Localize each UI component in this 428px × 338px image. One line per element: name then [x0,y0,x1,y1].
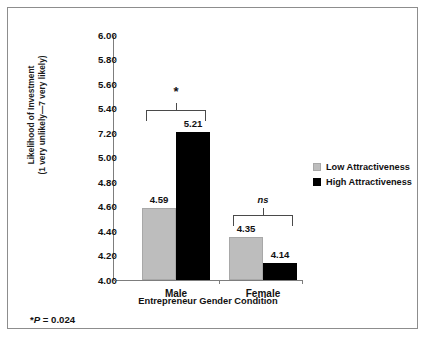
y-axis-tick-mark [113,182,116,183]
y-axis-tick-label: 4.00 [51,274,117,286]
bar-male-low [142,208,176,280]
footnote-p-value: = 0.024 [40,314,75,325]
y-axis-tick-mark [113,158,116,159]
y-axis-tick-mark [113,256,116,257]
y-axis-tick-label: 4.20 [51,250,117,262]
y-axis-tick-label: 4.60 [51,201,117,213]
y-axis-tick-label: 4.80 [51,176,117,188]
bracket-stem [263,208,264,216]
y-axis-tick-label: 6.00 [51,29,117,41]
x-axis-line [113,280,303,281]
y-axis-tick-label: 7.20 [51,127,117,139]
y-axis-tick-mark [113,35,116,36]
legend-swatch-icon [313,163,321,171]
bar-value-label: 4.59 [139,194,179,205]
significance-label: ns [243,194,283,205]
significance-label: * [156,87,196,97]
legend-item-low: Low Attractiveness [313,159,412,174]
bracket-stem [176,103,177,111]
bar-value-label: 4.14 [260,249,300,260]
plot-area: 6.005.805.605.407.205.004.804.604.404.20… [113,35,303,280]
y-axis-tick-label: 5.00 [51,152,117,164]
bracket-shape [146,110,206,121]
y-axis-tick-mark [113,207,116,208]
y-axis-tick-label: 5.60 [51,78,117,90]
y-axis-title: Likelihood of Investment (1 very unlikel… [20,20,54,210]
bar-female-high [263,263,297,280]
y-axis-tick-mark [113,231,116,232]
legend-item-high: High Attractiveness [313,174,412,189]
y-axis-tick-label: 5.40 [51,103,117,115]
bracket-shape [233,215,293,226]
bar-male-high [176,132,210,280]
footnote: *P = 0.024 [30,314,75,325]
legend-label: Low Attractiveness [326,162,410,172]
figure-frame: Likelihood of Investment (1 very unlikel… [7,7,418,329]
bar-female-low [229,237,263,280]
legend-label: High Attractiveness [326,177,412,187]
y-axis-title-line1: Likelihood of Investment [26,55,37,174]
chart-legend: Low AttractivenessHigh Attractiveness [313,159,412,189]
figure-container: Likelihood of Investment (1 very unlikel… [0,0,428,338]
x-axis-tick-mark [219,280,220,284]
x-axis-title: Entrepreneur Gender Condition [113,296,303,306]
legend-swatch-icon [313,178,321,186]
y-axis-title-line2: (1 very unlikely—7 very likely) [37,55,48,174]
y-axis-tick-mark [113,109,116,110]
x-axis-tick-mark [302,280,303,284]
y-axis-tick-mark [113,60,116,61]
y-axis-tick-label: 5.80 [51,54,117,66]
y-axis-tick-mark [113,133,116,134]
y-axis-tick-mark [113,280,116,281]
y-axis-tick-mark [113,84,116,85]
y-axis-tick-label: 4.40 [51,225,117,237]
